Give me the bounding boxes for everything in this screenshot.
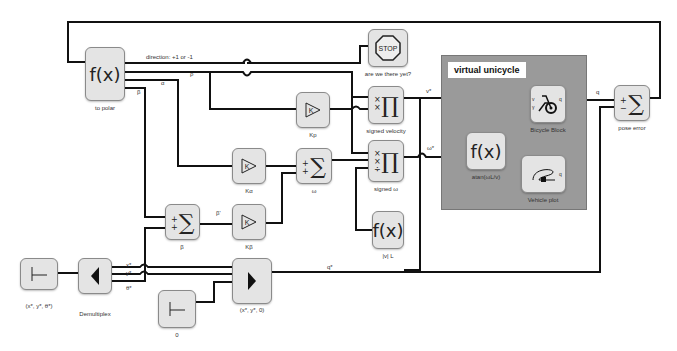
wire-label-omega-star: ω* xyxy=(427,145,434,151)
wire-label-beta: β xyxy=(137,89,140,95)
group-title: virtual unicycle xyxy=(448,62,526,78)
port-label-v: v xyxy=(532,96,535,102)
pose-error-block[interactable]: + − ∑ xyxy=(614,85,650,121)
port-label-q-in: q xyxy=(559,171,562,177)
svg-text:K: K xyxy=(309,107,314,114)
wire-label-y-star: y* xyxy=(126,270,131,276)
stop-block[interactable]: STOP xyxy=(368,29,408,67)
function-icon: f(x) xyxy=(89,64,120,85)
product-icon: ∏ xyxy=(381,93,399,118)
kb-label: Kβ xyxy=(245,244,252,250)
atan-label: atan(ωL/v) xyxy=(472,174,500,180)
gain-triangle-icon: K xyxy=(240,157,258,175)
wire-label-x-star: x* xyxy=(126,262,131,268)
abs-v-l-block[interactable]: f(x) xyxy=(372,211,404,249)
demux-icon xyxy=(89,266,101,286)
bicycle-block[interactable] xyxy=(530,85,566,123)
vehicle-plot-label: Vehicle plot xyxy=(528,197,559,203)
wire-label-v-star: v* xyxy=(426,88,431,94)
omega-label: ω xyxy=(312,188,317,194)
port-label-q-out: q xyxy=(559,96,562,102)
kp-label: Kp xyxy=(309,132,316,138)
bicycle-icon xyxy=(536,93,560,115)
to-polar-block[interactable]: f(x) xyxy=(85,47,125,101)
port-signs: + + xyxy=(302,160,309,176)
stop-sign-icon: STOP xyxy=(375,35,401,61)
port-signs: + + xyxy=(171,216,178,232)
product-icon: ∏ xyxy=(381,149,399,174)
wire-label-q-star: q* xyxy=(327,264,333,270)
wire-label-q: q xyxy=(596,89,599,95)
function-icon: f(x) xyxy=(372,220,403,241)
atan-block[interactable]: f(x) xyxy=(466,132,506,170)
ka-label: Kα xyxy=(245,188,252,194)
signed-velocity-label: signed velocity xyxy=(366,128,405,134)
stop-label: are we there yet? xyxy=(365,71,411,77)
wire-label-beta-prime: β' xyxy=(216,210,221,216)
mux-block[interactable] xyxy=(232,258,272,304)
port-signs: × × xyxy=(374,96,381,112)
mux-icon xyxy=(246,271,258,291)
signed-velocity-block[interactable]: × × ∏ xyxy=(368,86,404,124)
vehicle-path-icon xyxy=(531,164,557,184)
sum-icon: ∑ xyxy=(179,210,195,235)
gain-triangle-icon: K xyxy=(240,213,258,231)
constant-icon xyxy=(29,265,49,283)
svg-text:K: K xyxy=(245,163,250,170)
to-polar-label: to polar xyxy=(95,105,115,111)
constant-icon xyxy=(167,300,187,318)
function-icon: f(x) xyxy=(470,141,501,162)
svg-text:K: K xyxy=(245,219,250,226)
wire-label-direction: direction: +1 or -1 xyxy=(146,54,193,60)
bicycle-label: Bicycle Block xyxy=(530,127,565,133)
gain-triangle-icon: K xyxy=(304,101,322,119)
beta-sum-block[interactable]: + + ∑ xyxy=(165,204,200,240)
wire-label-theta-star: θ* xyxy=(126,285,132,291)
wire-label-rho: ρ xyxy=(190,71,193,77)
demux-label: Demultiplex xyxy=(79,311,110,317)
ka-gain-block[interactable]: K xyxy=(232,148,266,184)
svg-text:STOP: STOP xyxy=(379,45,398,52)
demux-block[interactable] xyxy=(78,258,112,294)
sum-icon: ∑ xyxy=(628,91,644,116)
mux-label: (x*, y*, 0) xyxy=(240,307,265,313)
constant-xyt-label: (x*, y*, θ*) xyxy=(25,303,52,309)
signed-omega-label: signed ω xyxy=(374,186,398,192)
kb-gain-block[interactable]: K xyxy=(232,204,266,240)
constant-zero-label: 0 xyxy=(175,332,178,338)
port-signs: + − xyxy=(620,97,627,113)
beta-sum-label: β xyxy=(180,244,183,250)
wire-label-alpha: α xyxy=(161,80,164,86)
omega-sum-block[interactable]: + + ∑ xyxy=(296,148,332,184)
constant-xyt-block[interactable] xyxy=(20,258,58,290)
port-signs: × × ÷ xyxy=(374,150,381,174)
signed-omega-block[interactable]: × × ÷ ∏ xyxy=(368,140,404,182)
pose-error-label: pose error xyxy=(618,125,645,131)
sum-icon: ∑ xyxy=(310,154,326,179)
abs-v-l-label: |v| L xyxy=(382,253,393,259)
port-label-gamma: γ xyxy=(532,104,535,110)
kp-gain-block[interactable]: K xyxy=(296,92,330,128)
constant-zero-block[interactable] xyxy=(158,290,196,328)
